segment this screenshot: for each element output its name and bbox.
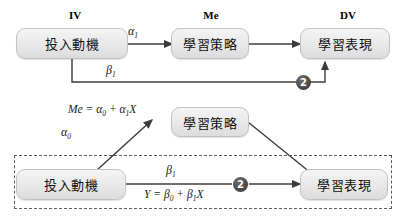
y-equation: Y = β0 + β1X	[144, 188, 203, 203]
y-equation-plus: +	[173, 188, 187, 200]
header-iv: IV	[47, 9, 103, 21]
header-me: Me	[183, 9, 239, 21]
node-dv-bottom[interactable]: 學習表現	[300, 169, 388, 200]
me-equation-term2-var: X	[129, 103, 136, 115]
me-equation-rel: =	[83, 103, 97, 115]
node-me-bottom[interactable]: 學習策略	[171, 107, 249, 137]
y-equation-rel: =	[150, 188, 164, 200]
marker-2-bottom: 2	[233, 177, 248, 192]
label-alpha0-bottom: α0	[61, 125, 71, 141]
y-equation-term2-var: X	[196, 188, 203, 200]
me-equation: Me = α0 + α1X	[68, 103, 136, 118]
diagram-canvas: IV Me DV 投入動機 學習策略 學習表現 α1 β1 2 投入動機 學習策…	[0, 0, 406, 216]
label-beta1-bottom: β1	[166, 163, 176, 179]
node-me-top[interactable]: 學習策略	[171, 28, 249, 59]
label-beta1-bottom-sub: 1	[172, 170, 176, 179]
label-beta1-top: β1	[106, 63, 116, 79]
label-alpha1-top: α1	[128, 24, 138, 40]
header-dv: DV	[320, 9, 376, 21]
label-alpha1-top-sub: 1	[134, 31, 138, 40]
me-equation-lhs: Me	[68, 103, 83, 115]
me-equation-plus: +	[106, 103, 120, 115]
node-iv-bottom[interactable]: 投入動機	[16, 169, 126, 200]
node-iv-top[interactable]: 投入動機	[16, 28, 128, 59]
label-beta1-top-sub: 1	[112, 70, 116, 79]
label-alpha0-bottom-sub: 0	[67, 132, 71, 141]
node-dv-top[interactable]: 學習表現	[300, 28, 390, 59]
marker-2-top: 2	[296, 75, 311, 90]
